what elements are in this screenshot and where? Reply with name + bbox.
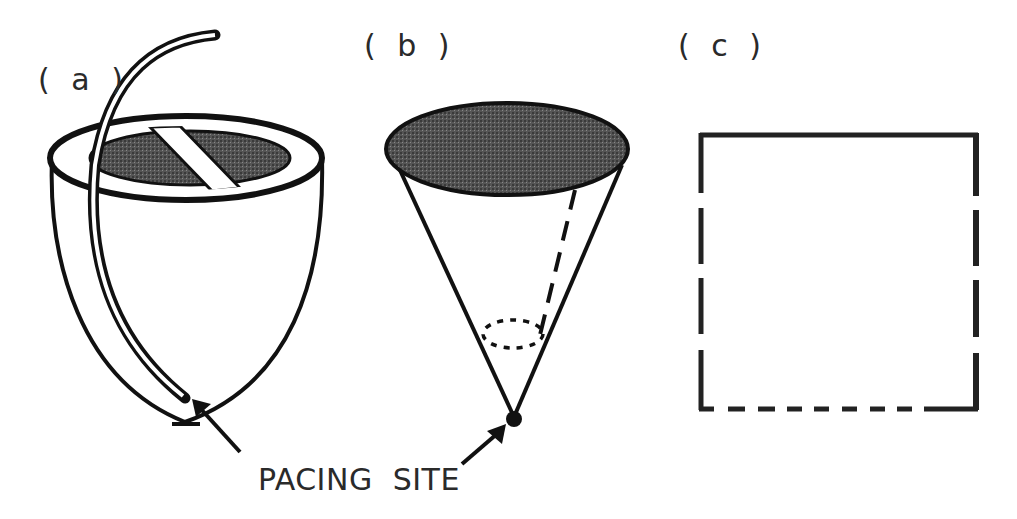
figure-canvas: [0, 0, 1017, 519]
panel-b-label: ( b ): [364, 28, 456, 63]
cone-dotted-ring: [483, 320, 543, 348]
cone-base-shaded: [386, 103, 628, 195]
panel-c-label: ( c ): [678, 28, 767, 63]
cone-right-side: [514, 165, 622, 417]
panel-a-label: ( a ): [38, 62, 129, 97]
panel-c-square: [699, 133, 978, 410]
arrow-to-cone-apex: [462, 424, 506, 464]
apex-pacing-dot: [506, 411, 522, 427]
pacing-site-caption: PACING SITE: [258, 462, 460, 497]
panel-b-cone: [386, 103, 628, 427]
